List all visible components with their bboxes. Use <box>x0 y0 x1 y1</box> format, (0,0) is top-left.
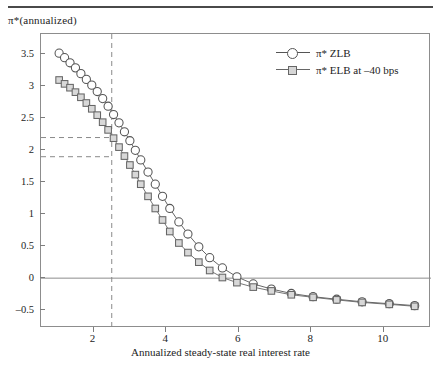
x-tick-mark <box>93 327 94 332</box>
data-point-square <box>166 228 173 235</box>
data-point-square <box>310 294 317 301</box>
data-point-square <box>196 259 203 266</box>
y-tick-mark <box>40 149 45 150</box>
data-point-square <box>132 171 139 178</box>
data-point-circle <box>151 180 159 188</box>
y-tick-mark <box>40 181 45 182</box>
data-point-square <box>145 193 152 200</box>
y-tick-label: 0.5 <box>0 240 34 251</box>
y-tick-mark <box>40 53 45 54</box>
y-tick-mark <box>40 85 45 86</box>
data-point-square <box>234 279 241 286</box>
y-tick-label: 3.5 <box>0 48 34 59</box>
data-point-circle <box>104 102 112 110</box>
data-point-circle <box>206 254 214 262</box>
data-point-square <box>88 105 95 112</box>
x-tick-mark <box>310 327 311 332</box>
data-point-circle <box>195 243 203 251</box>
data-point-square <box>116 144 123 151</box>
y-tick-label: –0.5 <box>0 304 34 315</box>
series-line <box>59 53 415 305</box>
data-point-square <box>288 291 295 298</box>
x-tick-label: 2 <box>90 332 96 344</box>
legend-label: π* ZLB <box>316 47 351 59</box>
y-tick-mark <box>40 309 45 310</box>
data-point-square <box>250 284 257 291</box>
data-point-circle <box>218 264 226 272</box>
x-tick-mark <box>238 327 239 332</box>
legend-label: π* ELB at –40 bps <box>316 64 399 76</box>
data-point-circle <box>158 192 166 200</box>
data-point-square <box>206 267 213 274</box>
y-tick-label: 2.5 <box>0 112 34 123</box>
y-axis-title: π*(annualized) <box>8 14 77 26</box>
data-point-square <box>99 119 106 126</box>
y-tick-mark <box>40 213 45 214</box>
legend-item: π* ELB at –40 bps <box>276 61 399 78</box>
figure-root: π*(annualized) 3.532.521.510.50–0.5 2468… <box>0 0 441 367</box>
data-point-square <box>121 153 128 160</box>
data-point-square <box>137 181 144 188</box>
legend-marker <box>276 46 310 60</box>
legend-item: π* ZLB <box>276 44 399 61</box>
data-point-square <box>152 205 159 212</box>
y-tick-label: 3 <box>0 80 34 91</box>
y-tick-label: 1 <box>0 208 34 219</box>
data-point-square <box>185 249 192 256</box>
data-point-square <box>176 240 183 247</box>
data-point-square <box>105 127 112 134</box>
series-zlb <box>55 49 419 310</box>
header-rule <box>8 6 433 8</box>
data-point-square <box>94 112 101 119</box>
data-point-circle <box>175 218 183 226</box>
x-tick-mark <box>165 327 166 332</box>
x-tick-mark <box>383 327 384 332</box>
y-tick-mark <box>40 277 45 278</box>
data-point-square <box>159 217 166 224</box>
data-point-circle <box>99 94 107 102</box>
x-tick-label: 4 <box>162 332 168 344</box>
y-tick-mark <box>40 117 45 118</box>
data-point-circle <box>93 87 101 95</box>
data-point-circle <box>131 146 139 154</box>
chart-legend: π* ZLBπ* ELB at –40 bps <box>276 44 399 78</box>
legend-square-icon <box>288 66 297 75</box>
data-point-circle <box>137 156 145 164</box>
y-tick-label: 2 <box>0 144 34 155</box>
data-point-square <box>386 301 393 308</box>
data-point-square <box>411 303 418 310</box>
data-point-square <box>127 162 134 169</box>
data-point-square <box>333 297 340 304</box>
data-point-circle <box>144 168 152 176</box>
chart-canvas <box>41 34 431 328</box>
data-point-circle <box>166 204 174 212</box>
data-point-square <box>359 299 366 306</box>
data-point-circle <box>184 230 192 238</box>
y-tick-label: 0 <box>0 272 34 283</box>
data-point-circle <box>126 137 134 145</box>
x-tick-label: 6 <box>235 332 241 344</box>
x-tick-label: 10 <box>377 332 388 344</box>
x-axis-title: Annualized steady-state real interest ra… <box>0 346 441 358</box>
legend-circle-icon <box>287 48 298 59</box>
y-tick-label: 1.5 <box>0 176 34 187</box>
data-point-square <box>110 135 117 142</box>
x-tick-label: 8 <box>308 332 314 344</box>
data-point-circle <box>115 119 123 127</box>
data-point-circle <box>120 128 128 136</box>
data-point-square <box>219 274 226 281</box>
data-point-square <box>268 288 275 295</box>
data-point-circle <box>109 110 117 118</box>
y-tick-mark <box>40 245 45 246</box>
legend-marker <box>276 63 310 77</box>
